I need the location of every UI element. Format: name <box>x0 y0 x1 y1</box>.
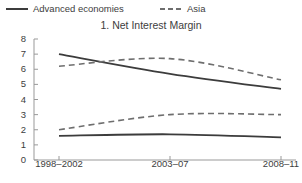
plot-area: 012345678 1998–20022003–072008–11 <box>0 33 302 183</box>
x-axis-tick-labels: 1998–20022003–072008–11 <box>0 158 302 183</box>
legend-label-advanced-economies: Advanced economies <box>33 4 124 14</box>
chart-legend: Advanced economies Asia <box>0 0 302 18</box>
data-series-line <box>59 134 281 137</box>
solid-line-icon <box>6 4 28 14</box>
chart-title: 1. Net Interest Margin <box>0 19 302 31</box>
x-axis-tick-label: 2003–07 <box>152 158 189 169</box>
dashed-line-icon <box>160 4 182 14</box>
chart-figure: Advanced economies Asia 1. Net Interest … <box>0 0 302 183</box>
x-axis-tick-label: 1998–2002 <box>35 158 83 169</box>
data-series-line <box>59 58 281 80</box>
data-series-line <box>59 114 281 130</box>
legend-item-asia: Asia <box>160 0 205 18</box>
x-axis-tick-label: 2008–11 <box>263 158 299 169</box>
data-series-group <box>59 54 281 137</box>
legend-label-asia: Asia <box>187 4 205 14</box>
legend-item-advanced-economies: Advanced economies <box>6 0 124 18</box>
y-axis-ticks <box>34 39 38 160</box>
